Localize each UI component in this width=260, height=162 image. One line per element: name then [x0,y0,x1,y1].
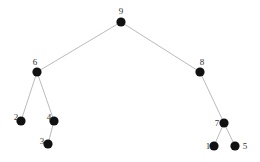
tree-node-5 [230,141,239,150]
tree-diagram: 968243715 [0,0,260,162]
edge-9-6 [37,22,121,72]
tree-node-9 [116,17,125,26]
node-label-7: 7 [215,118,220,128]
tree-node-6 [32,67,41,76]
tree-node-8 [195,67,204,76]
node-label-5: 5 [243,141,248,151]
edges-layer [21,22,235,146]
edge-6-2 [21,72,37,121]
node-label-6: 6 [33,57,38,67]
node-label-1: 1 [206,141,211,151]
node-label-3: 3 [40,136,45,146]
edge-9-8 [121,22,200,72]
tree-node-1 [209,141,218,150]
node-label-4: 4 [47,112,52,122]
node-label-8: 8 [200,57,205,67]
edge-8-7 [200,72,224,123]
edge-6-4 [37,72,54,121]
tree-node-7 [219,118,228,127]
node-label-9: 9 [119,6,124,16]
tree-node-3 [43,139,52,148]
node-label-2: 2 [14,112,19,122]
nodes-layer [16,17,239,150]
